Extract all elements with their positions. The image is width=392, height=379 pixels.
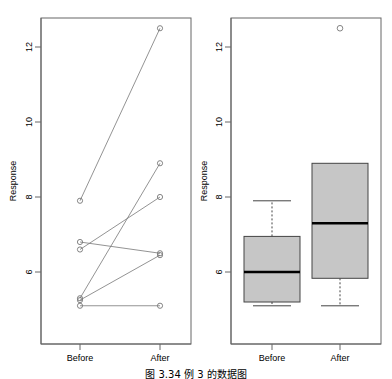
box-y-tick-label-10: 10 xyxy=(214,117,224,127)
boxplot-y-axis-title: Response xyxy=(199,161,209,202)
figure-svg: 12 10 8 6 Response Before After xyxy=(0,0,392,379)
box-y-tick-label-8: 8 xyxy=(214,194,224,199)
profile-line-subject-1 xyxy=(80,28,160,201)
figure-caption: 图 3.34 例 3 的数据图 xyxy=(0,366,392,379)
profile-y-tick-labels: 12 10 8 6 xyxy=(24,42,34,275)
box-y-tick-label-6: 6 xyxy=(214,269,224,274)
y-tick-label-10: 10 xyxy=(24,117,34,127)
boxplot-y-ticks xyxy=(225,47,231,272)
boxplot-x-label-before: Before xyxy=(259,353,286,363)
profile-lines xyxy=(80,28,160,306)
before-box-rect xyxy=(244,236,300,302)
boxplot-x-label-after: After xyxy=(330,353,349,363)
after-outlier-point xyxy=(337,25,343,31)
y-tick-label-12: 12 xyxy=(24,42,34,52)
after-box-rect xyxy=(312,163,368,278)
profile-plot-frame xyxy=(41,18,191,344)
boxplot-panel: 12 10 8 6 Response Before After xyxy=(199,18,381,363)
boxplot-box-after xyxy=(312,25,368,305)
profile-y-axis-title: Response xyxy=(8,161,18,202)
figure-container: 12 10 8 6 Response Before After xyxy=(0,0,392,379)
y-tick-label-8: 8 xyxy=(24,194,34,199)
profile-line-subject-4 xyxy=(80,197,160,250)
profile-plot-panel: 12 10 8 6 Response Before After xyxy=(8,18,191,363)
profile-x-label-after: After xyxy=(150,353,169,363)
boxplot-y-tick-labels: 12 10 8 6 xyxy=(214,42,224,275)
profile-points-before xyxy=(77,198,82,308)
boxplot-box-before xyxy=(244,201,300,306)
box-y-tick-label-12: 12 xyxy=(214,42,224,52)
profile-line-subject-3 xyxy=(80,242,160,253)
profile-y-ticks xyxy=(35,47,41,272)
y-tick-label-6: 6 xyxy=(24,269,34,274)
profile-x-label-before: Before xyxy=(67,353,94,363)
